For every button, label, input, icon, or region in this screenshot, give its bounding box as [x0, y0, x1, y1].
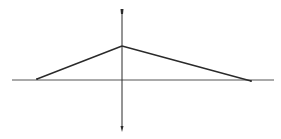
- lens-diagram: [0, 0, 281, 139]
- arrow-up-icon: [121, 9, 124, 14]
- image-point: [250, 80, 252, 82]
- background: [0, 0, 281, 139]
- diagram-canvas: [0, 0, 281, 139]
- object-point: [36, 78, 38, 80]
